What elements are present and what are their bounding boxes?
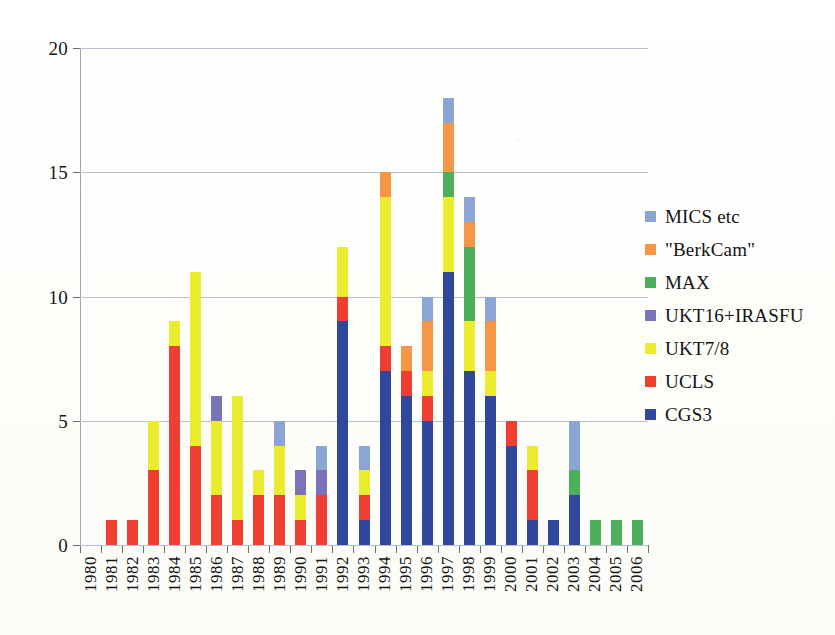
bar-segment [316,495,327,545]
y-axis-tick-label: 15 [49,163,68,182]
bar-segment [190,272,201,446]
legend-color-swatch-icon [645,409,656,420]
bar-segment [295,495,306,520]
x-axis-tick-label: 2003 [565,556,582,592]
bar-segment [232,396,243,520]
bar-1993 [359,446,370,545]
bar-segment [569,470,580,495]
bar-segment [443,123,454,173]
x-tick-mark [206,546,207,553]
bar-1985 [190,272,201,545]
bar-segment [569,421,580,471]
bar-1995 [401,346,412,545]
x-axis-tick-label: 1985 [187,556,204,592]
x-axis-tick-label: 1991 [313,556,330,592]
x-axis-tick-label: 2004 [586,556,603,592]
bar-segment [527,470,538,520]
legend-item[interactable]: UCLS [645,365,835,398]
bar-segment [359,470,370,495]
x-axis-tick-label: 1986 [208,556,225,592]
y-axis-tick-label: 5 [58,411,68,430]
legend-item[interactable]: UKT16+IRASFU [645,299,835,332]
bar-segment [527,520,538,545]
x-tick-mark [185,546,186,553]
bar-segment [211,396,222,421]
x-axis-tick-label: 1987 [229,556,246,592]
stacked-bar-chart: 05101520 1980198119821983198419851986198… [0,0,835,635]
bar-2002 [548,520,559,545]
legend-item-label: UKT16+IRASFU [665,305,804,327]
x-axis-tick-label: 1981 [103,556,120,592]
x-axis-tick-label: 1988 [250,556,267,592]
bar-1992 [337,247,348,545]
bar-segment [380,197,391,346]
x-axis-labels: 1980198119821983198419851986198719881989… [80,556,649,634]
plot-area [80,48,648,545]
legend-item-label: "BerkCam" [665,239,755,261]
bar-segment [443,197,454,272]
bar-segment [211,421,222,496]
bar-segment [274,446,285,496]
bar-segment [359,520,370,545]
bar-segment [422,371,433,396]
y-axis-tick-label: 20 [49,39,68,58]
bar-segment [295,470,306,495]
legend-color-swatch-icon [645,310,656,321]
bar-segment [590,520,601,545]
bar-1983 [148,421,159,545]
legend-item[interactable]: MICS etc [645,200,835,233]
bar-segment [253,495,264,545]
bar-1997 [443,98,454,545]
x-axis-tick-label: 2000 [502,556,519,592]
y-tick-mark-20 [73,48,80,49]
legend-item[interactable]: MAX [645,266,835,299]
legend-item[interactable]: CGS3 [645,398,835,431]
x-axis-tick-label: 1995 [397,556,414,592]
bar-segment [506,446,517,545]
bar-segment [632,520,643,545]
bar-segment [443,172,454,197]
bar-segment [527,446,538,471]
bar-segment [548,520,559,545]
x-tick-mark [501,546,502,553]
bar-2003 [569,421,580,545]
bar-2006 [632,520,643,545]
bar-segment [422,396,433,421]
x-tick-mark [353,546,354,553]
bar-1984 [169,321,180,545]
legend-item-label: UKT7/8 [665,338,730,360]
gridline-15 [80,172,648,173]
x-tick-mark [227,546,228,553]
bar-segment [443,98,454,123]
x-tick-mark [396,546,397,553]
gridline-5 [80,421,648,422]
legend-color-swatch-icon [645,244,656,255]
bar-segment [569,495,580,545]
x-tick-mark [164,546,165,553]
gridline-20 [80,48,648,49]
bar-segment [359,446,370,471]
bar-segment [401,371,412,396]
bar-segment [190,446,201,545]
bar-segment [169,321,180,346]
bar-segment [464,321,475,371]
legend-item-label: CGS3 [665,404,712,426]
bar-segment [485,321,496,371]
x-axis-tick-label: 1996 [418,556,435,592]
bar-segment [169,346,180,545]
x-axis-tick-label: 2006 [628,556,645,592]
y-axis-labels: 05101520 [0,0,68,635]
bar-segment [443,272,454,545]
legend-item[interactable]: UKT7/8 [645,332,835,365]
bar-segment [148,470,159,545]
bar-2005 [611,520,622,545]
x-tick-mark [480,546,481,553]
bar-segment [464,247,475,322]
bar-segment [316,470,327,495]
x-axis-tick-label: 1997 [439,556,456,592]
y-tick-mark-10 [73,297,80,298]
y-tick-mark-5 [73,421,80,422]
legend-item[interactable]: "BerkCam" [645,233,835,266]
x-axis-tick-label: 1994 [376,556,393,592]
x-axis-tick-label: 1983 [145,556,162,592]
